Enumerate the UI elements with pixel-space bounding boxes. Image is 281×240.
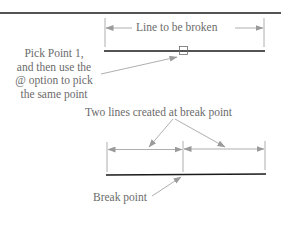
pick-point-label-line-2: and then use the — [8, 61, 100, 75]
leader-arrow-segment-2 — [175, 119, 225, 147]
pick-point-label-line-3: @ option to pick — [8, 74, 100, 88]
break-point-arrow — [152, 177, 181, 196]
line-to-be-broken-label: Line to be broken — [136, 21, 217, 35]
pick-point-arrow — [101, 57, 177, 74]
pick-point-label-line-1: Pick Point 1, — [8, 47, 100, 61]
leader-arrow-segment-1 — [149, 119, 173, 147]
break-point-label: Break point — [93, 191, 147, 205]
pick-point-label-line-4: the same point — [8, 88, 100, 102]
resulting-lines — [106, 174, 266, 175]
pick-point-label: Pick Point 1, and then use the @ option … — [8, 47, 100, 101]
two-lines-created-label: Two lines created at break point — [85, 106, 232, 120]
